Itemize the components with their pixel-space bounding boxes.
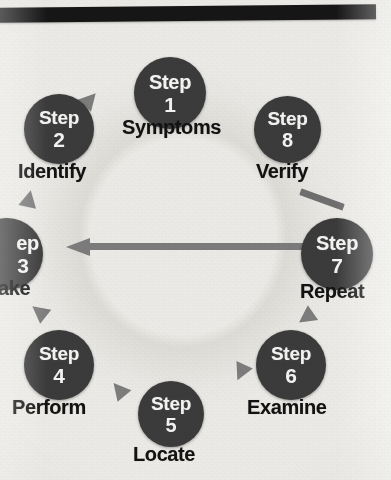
step-number-7: 7	[331, 255, 343, 276]
step-number-5: 5	[165, 415, 176, 435]
step-circle-6[interactable]: Step 6	[256, 330, 326, 400]
step-number-6: 6	[285, 365, 297, 386]
arrowhead-icon-step3-to-step2	[18, 188, 39, 208]
step-word-2: Step	[39, 108, 79, 127]
step-word-8: Step	[268, 109, 308, 128]
center-arrow-head	[66, 238, 90, 256]
step-word-3-clipped: ep	[16, 233, 39, 253]
step-word-7: Step	[316, 233, 358, 253]
step-caption-3: ake	[0, 277, 30, 300]
step-caption-4: Perform	[12, 396, 86, 419]
step-circle-8[interactable]: Step 8	[254, 96, 321, 163]
step-circle-2[interactable]: Step 2	[24, 94, 94, 164]
step-word-6: Step	[271, 344, 311, 363]
scanned-diagram-page: Step 1 Symptoms Step 2 Identify ep 3 ake…	[0, 0, 391, 480]
step-circle-5[interactable]: Step 5	[138, 381, 204, 447]
step-caption-2: Identify	[18, 160, 86, 183]
step-caption-8: Verify	[256, 160, 308, 183]
step-caption-6: Examine	[247, 396, 326, 419]
step-number-1: 1	[164, 94, 176, 115]
step-word-1: Step	[149, 72, 191, 92]
top-black-bar	[0, 4, 376, 23]
step-caption-5: Locate	[133, 443, 195, 466]
step-caption-1: Symptoms	[122, 116, 221, 139]
step-number-2: 2	[53, 129, 65, 150]
step-number-4: 4	[53, 365, 65, 386]
step-number-3: 3	[17, 255, 29, 276]
step-word-4: Step	[39, 344, 79, 363]
center-arrow-icon	[66, 238, 306, 256]
step-word-5: Step	[151, 394, 191, 413]
step-number-8: 8	[282, 130, 293, 150]
center-arrow-shaft	[88, 243, 306, 250]
step-circle-4[interactable]: Step 4	[24, 330, 94, 400]
step-caption-7: Repeat	[300, 280, 364, 303]
